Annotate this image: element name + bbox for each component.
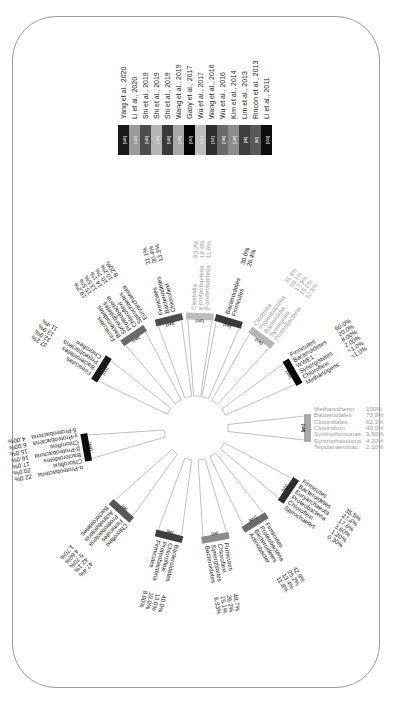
wedge-ref-label: [153]: [88, 442, 93, 451]
wedge-111: [111]Firmicutes35.5%Bacteroidetes27.4%Eu…: [220, 443, 363, 549]
legend-ref: [147]: [200, 136, 204, 144]
legend-ref: [153]: [266, 136, 270, 144]
wedge-ref-label: [144]: [301, 424, 305, 432]
legend-label: Gaby et al., 2017: [186, 66, 194, 119]
legend-item: [146]Wang et al., 2019: [173, 64, 184, 155]
legend-item: [82]Rincón et al., 2013: [250, 61, 261, 155]
wedge-outline: [220, 443, 291, 498]
legend-label: Wang et al., 2019: [175, 64, 183, 119]
wedge-outline: [126, 332, 181, 403]
legend-label: Kim et al., 2014: [230, 70, 237, 119]
legend-item: [143]Shi et al., 2019: [140, 72, 151, 155]
legend-item: [102]Gaby et al., 2017: [184, 66, 195, 155]
legend-item: [149]Kim et al., 2014: [228, 70, 239, 155]
wedge-102: [102]Firmicutes60.0%Bacteroidetes20.0%WW…: [222, 317, 369, 416]
wedge-153: [153]α-Proteobacteria22.0%Chloroflexi20.…: [7, 424, 165, 483]
wedge-ref-label: [147]: [195, 319, 204, 323]
legend-label: Li et al., 2020: [131, 77, 138, 119]
wedge-141: [141]Firmicutes37.2%Bacteroidetes32.9%Pr…: [29, 317, 171, 415]
wedge-96: [96]Bacteroidetes40.0%Chloroflexi13.0%Pr…: [137, 458, 192, 614]
hub: [168, 400, 224, 456]
legend-label: Wu et al., 2017: [197, 72, 204, 119]
legend-label: Lim et al., 2013: [241, 71, 248, 119]
wedge-82: [82]Firmicutes48.7%Chloroflexi26.2%Syner…: [198, 459, 242, 616]
legend-ref: [145]: [167, 136, 171, 144]
wedge-outline: [188, 320, 212, 396]
wedge-ref-label: [82]: [211, 531, 218, 536]
wedge-outline: [159, 321, 192, 398]
legend-ref: [96]: [244, 137, 248, 143]
taxon-label: Tepidanaerobac.: [314, 443, 360, 450]
legend-item: [153]Li et al., 2011: [261, 77, 272, 155]
legend-item: [145]Shi et al., 2019: [162, 72, 173, 155]
wedge-outline: [159, 458, 192, 535]
legend-label: Rincón et al., 2013: [252, 61, 259, 119]
legend-label: Yang et al., 2020: [120, 66, 128, 119]
legend-ref: [111]: [211, 136, 215, 144]
wedge-147: [147]Clostridia63.2%γ-proteobacteria19.4…: [186, 240, 217, 397]
wedge-outline: [210, 453, 263, 525]
wedge-outline: [88, 430, 165, 458]
taxon-value: 2.10%: [366, 443, 384, 450]
legend-ref: [144]: [156, 136, 160, 144]
legend: [141]Yang et al., 2020[142]Li et al., 20…: [118, 61, 272, 155]
legend-label: Li et al., 2011: [263, 77, 270, 119]
taxon-value: 11.6%: [204, 241, 212, 259]
legend-ref: [143]: [145, 136, 149, 144]
legend-label: Wang et al., 2016: [208, 64, 216, 119]
legend-ref: [142]: [134, 136, 138, 144]
wedge-outline: [99, 361, 171, 414]
wedge-146: [146]Clostridia31.4%Proteobacteria18.1%B…: [212, 266, 319, 404]
taxon-label: β-proteobacteria: [203, 264, 212, 310]
legend-ref: [148]: [222, 136, 226, 144]
radial-taxa-diagram: [141]Firmicutes37.2%Bacteroidetes32.9%Pr…: [0, 0, 393, 704]
legend-item: [111]Wang et al., 2016: [206, 64, 217, 155]
legend-label: Wu et al., 2016: [219, 72, 226, 119]
legend-item: [96]Lim et al., 2013: [239, 71, 250, 155]
legend-ref: [102]: [189, 136, 193, 144]
legend-item: [147]Wu et al., 2017: [195, 72, 206, 155]
legend-item: [141]Yang et al., 2020: [118, 66, 129, 155]
legend-label: Shi et al., 2019: [164, 72, 171, 119]
legend-item: [148]Wu et al., 2016: [217, 72, 228, 155]
legend-ref: [146]: [178, 136, 182, 144]
legend-item: [142]Li et al., 2020: [129, 77, 140, 155]
legend-ref: [82]: [255, 137, 259, 143]
legend-ref: [149]: [233, 136, 237, 144]
diagram-canvas: [141]Firmicutes37.2%Bacteroidetes32.9%Pr…: [0, 0, 393, 704]
wedge-ref-label: [143]: [166, 321, 175, 327]
wedge-142: [142]Firmicutes19.2%Bacteroidetes15.5%Sy…: [72, 260, 182, 404]
wedge-outline: [228, 416, 304, 440]
wedge-outline: [198, 459, 226, 536]
legend-label: Shi et al., 2019: [153, 72, 160, 119]
legend-item: [144]Shi et al., 2019: [151, 72, 162, 155]
wedge-144: [144]Methanotherm.100%Bacteroidales73.9%…: [228, 405, 384, 450]
wedge-148: [148]Firmicutes42.9%Proteobacteria25.2%B…: [210, 453, 308, 595]
legend-ref: [141]: [123, 136, 127, 144]
legend-label: Shi et al., 2019: [142, 72, 149, 119]
wedge-ref-label: [96]: [167, 529, 174, 534]
wedge-outline: [222, 364, 295, 415]
